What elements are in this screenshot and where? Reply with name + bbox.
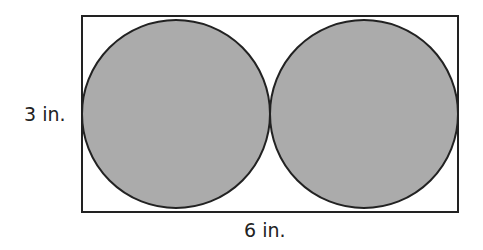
circle-right [270,20,458,208]
circle-left [82,20,270,208]
height-label: 3 in. [24,103,66,125]
diagram-figure [0,0,483,250]
width-label: 6 in. [244,219,286,241]
